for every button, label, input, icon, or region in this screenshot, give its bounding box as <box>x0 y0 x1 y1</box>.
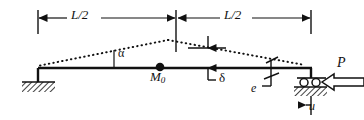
right-support-ground-hatch <box>294 87 327 96</box>
eccentricity-label: e <box>251 82 256 94</box>
span-label-left: L/2 <box>71 8 88 21</box>
span-label-right: L/2 <box>224 8 241 21</box>
roller-wheel-right <box>312 79 320 87</box>
hinge-moment-symbol: M <box>150 69 161 84</box>
hinge-moment-label: M0 <box>150 70 165 85</box>
deformed-shape-left-branch <box>40 40 168 66</box>
hinge-moment-subscript: 0 <box>161 75 166 85</box>
beam-buckling-diagram: L/2 L/2 α M0 δ e P u <box>0 0 364 120</box>
deformed-shape <box>40 40 302 66</box>
eccentricity-tick-upper <box>266 57 278 63</box>
left-support-ground-hatch <box>22 82 55 92</box>
displacement-label: u <box>309 100 315 112</box>
axial-load-arrow-shape <box>322 74 364 90</box>
eccentricity-dimension <box>262 57 279 86</box>
deformed-shape-right-branch <box>168 40 302 65</box>
roller-wheel-left <box>300 79 308 87</box>
left-support <box>22 68 55 92</box>
deflection-label: δ <box>219 71 225 84</box>
axial-load-label: P <box>337 56 346 70</box>
angle-label-alpha: α <box>118 47 124 59</box>
axial-load-arrow <box>322 74 364 90</box>
